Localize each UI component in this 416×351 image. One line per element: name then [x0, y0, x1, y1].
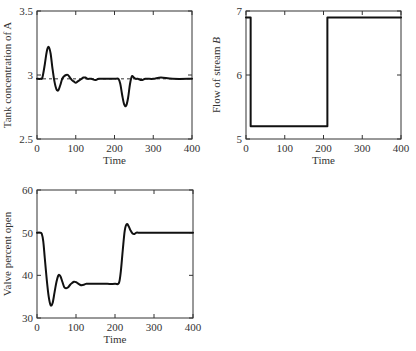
x-tick-label: 300	[146, 321, 163, 333]
x-tick-label: 100	[68, 321, 85, 333]
figure: 01002003004002.533.5TimeTank concentrati…	[0, 0, 416, 351]
y-tick-label: 3	[28, 69, 34, 81]
y-tick-label: 2.5	[19, 133, 33, 145]
plot-tank-concentration: 01002003004002.533.5TimeTank concentrati…	[1, 5, 201, 166]
series-line-flow	[246, 17, 401, 126]
y-tick-label: 5	[237, 133, 243, 145]
x-tick-label: 200	[315, 142, 332, 154]
x-axis-title: Time	[312, 154, 335, 166]
x-tick-label: 400	[393, 142, 410, 154]
plot-flow-stream-b: 0100200300400567TimeFlow of stream B	[210, 5, 410, 166]
x-tick-label: 0	[34, 142, 40, 154]
x-tick-label: 300	[145, 142, 162, 154]
y-axis-title: Flow of stream B	[210, 37, 222, 113]
x-tick-label: 400	[185, 321, 202, 333]
x-tick-label: 300	[354, 142, 371, 154]
x-tick-label: 200	[107, 321, 124, 333]
x-tick-label: 0	[34, 321, 40, 333]
x-tick-label: 100	[277, 142, 294, 154]
y-tick-label: 6	[237, 69, 243, 81]
x-tick-label: 100	[68, 142, 85, 154]
x-tick-label: 200	[106, 142, 123, 154]
x-tick-label: 0	[243, 142, 249, 154]
plot-valve-percent-open: 010020030040030405060TimeValve percent o…	[1, 184, 202, 345]
series-line-valve	[37, 224, 193, 306]
y-tick-label: 7	[237, 5, 243, 17]
x-axis-title: Time	[104, 333, 127, 345]
plot-frame	[37, 11, 192, 139]
plot-frame	[37, 190, 193, 318]
x-tick-label: 400	[184, 142, 201, 154]
y-tick-label: 3.5	[19, 5, 33, 17]
y-axis-title: Valve percent open	[1, 211, 13, 296]
y-tick-label: 60	[22, 184, 34, 196]
plot-frame	[246, 11, 401, 139]
y-tick-label: 30	[22, 312, 34, 324]
y-axis-title: Tank concentration of A	[1, 22, 13, 129]
y-tick-label: 50	[22, 227, 34, 239]
y-tick-label: 40	[22, 269, 34, 281]
x-axis-title: Time	[103, 154, 126, 166]
series-line-concentration	[37, 47, 192, 106]
